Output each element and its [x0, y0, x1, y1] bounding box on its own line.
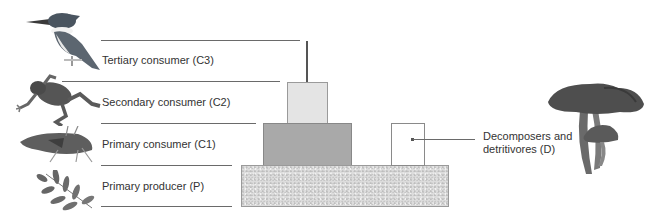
level-line-bottom-p [101, 206, 232, 207]
label-primary-consumer: Primary consumer (C1) [102, 138, 216, 151]
kingfisher-bird-icon [24, 10, 104, 72]
label-decomposers-line2: detritivores (D) [483, 143, 555, 156]
pyramid-block-c1 [263, 123, 352, 166]
pyramid-bar-c3 [306, 41, 308, 82]
level-line-top-c3 [101, 40, 300, 41]
decomposer-connector-line [413, 139, 475, 140]
level-line-c3-c2 [62, 81, 280, 82]
pyramid-block-c2 [287, 82, 328, 124]
level-line-c2-c1 [101, 123, 256, 124]
label-primary-producer: Primary producer (P) [102, 180, 204, 193]
label-tertiary-consumer: Tertiary consumer (C3) [102, 54, 214, 67]
leaves-icon [36, 170, 98, 212]
pyramid-block-producer [241, 165, 449, 207]
mushroom-icon [546, 82, 646, 180]
grasshopper-icon [18, 126, 98, 164]
decomposer-box [391, 123, 425, 166]
label-secondary-consumer: Secondary consumer (C2) [102, 96, 230, 109]
level-line-c1-p [101, 165, 232, 166]
